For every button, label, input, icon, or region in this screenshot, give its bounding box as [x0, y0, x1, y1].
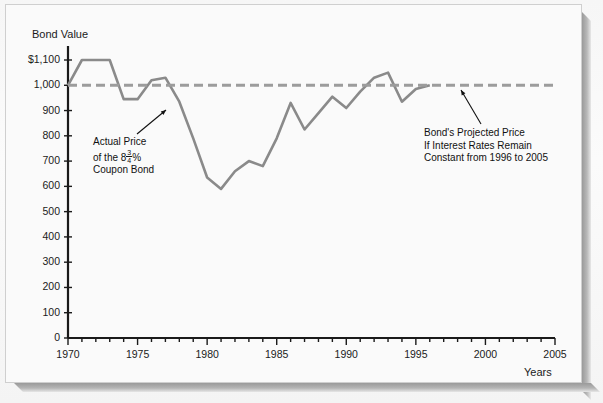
chart-series — [68, 60, 555, 189]
figure-frame: Bond Value Years Actual Price of the 834… — [0, 0, 603, 403]
chart-plot-area — [0, 0, 603, 403]
y-tick-label: 1,000 — [8, 78, 60, 90]
y-tick-label: 800 — [8, 129, 60, 141]
x-tick-label: 1985 — [252, 348, 302, 360]
y-tick-label: 400 — [8, 230, 60, 242]
x-tick-label: 1995 — [391, 348, 441, 360]
y-tick-label: 200 — [8, 280, 60, 292]
y-tick-label: 0 — [8, 331, 60, 343]
x-tick-label: 1990 — [321, 348, 371, 360]
y-tick-label: 600 — [8, 179, 60, 191]
y-tick-label: $1,100 — [8, 53, 60, 65]
y-tick-label: 500 — [8, 205, 60, 217]
y-tick-label: 300 — [8, 255, 60, 267]
series-line-0 — [68, 60, 430, 189]
chart-axes — [68, 46, 555, 338]
x-tick-label: 2000 — [460, 348, 510, 360]
x-tick-label: 1970 — [43, 348, 93, 360]
y-tick-label: 700 — [8, 154, 60, 166]
chart-tick-marks — [64, 60, 555, 345]
actual-price-leader — [137, 110, 166, 134]
x-tick-label: 1980 — [182, 348, 232, 360]
y-tick-label: 100 — [8, 306, 60, 318]
projected-price-leader — [461, 90, 481, 124]
x-tick-label: 1975 — [113, 348, 163, 360]
y-tick-label: 900 — [8, 104, 60, 116]
x-tick-label: 2005 — [530, 348, 580, 360]
